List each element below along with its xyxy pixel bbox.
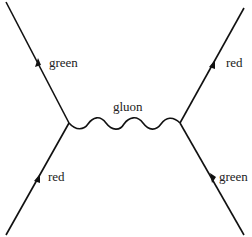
arrow-icon xyxy=(34,174,40,183)
label-top-left: green xyxy=(49,56,78,69)
label-gluon: gluon xyxy=(113,100,143,113)
label-bottom-left: red xyxy=(48,170,65,183)
feynman-diagram xyxy=(0,0,252,237)
label-top-right: red xyxy=(226,56,243,69)
label-bottom-right: green xyxy=(219,170,248,183)
gluon-propagator xyxy=(69,118,180,129)
